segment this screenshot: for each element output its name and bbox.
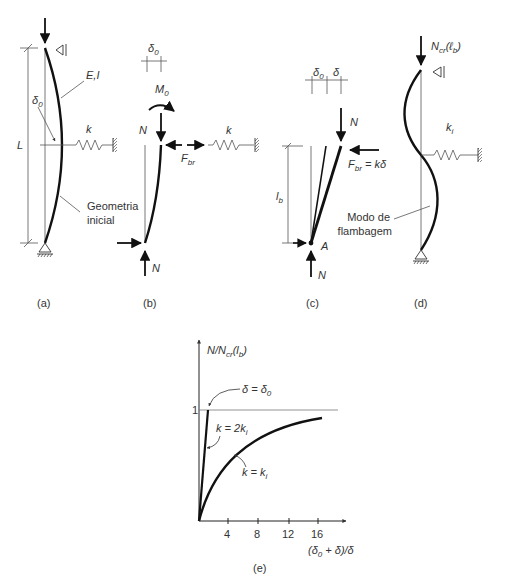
moment-arrow-icon xyxy=(149,105,174,111)
pin-support-icon xyxy=(415,250,427,259)
panel-e-chart: N/Ncr(lb) 1 4 8 12 16 (δ0 + δ)/δ δ = δ0 … xyxy=(192,340,355,574)
wall-anchor-icon xyxy=(255,138,259,152)
x-axis-label: (δ0 + δ)/δ xyxy=(308,544,355,559)
offset0-label: δ0 xyxy=(313,66,324,81)
caption-a: (a) xyxy=(37,297,50,309)
offset-label: δ0 xyxy=(148,42,159,57)
initial-geometry-label-2: inicial xyxy=(87,214,115,226)
x-tick-16: 16 xyxy=(311,528,323,540)
spring-icon xyxy=(62,140,113,150)
axial-top-label: N xyxy=(350,116,358,128)
spring-label: ki xyxy=(446,121,454,136)
buckling-mode-label-2: flambagem xyxy=(338,225,392,237)
annotation-delta-equals-delta0: δ = δ0 xyxy=(242,383,272,398)
initial-geometry-label-1: Geometria xyxy=(87,200,139,212)
pivot-label: A xyxy=(320,240,328,252)
brace-force-label: Fbr = kδ xyxy=(348,158,387,173)
annotation-k-ki: k = ki xyxy=(242,466,268,481)
brace-force-label: Fbr xyxy=(181,152,195,167)
axial-top-label: N xyxy=(139,124,147,136)
axial-bottom-label: N xyxy=(152,262,160,274)
pin-support-icon xyxy=(39,243,51,252)
caption-c: (c) xyxy=(306,297,319,309)
imperfect-column xyxy=(45,48,62,243)
initial-position-bar xyxy=(311,146,326,243)
y-axis-label: N/Ncr(lb) xyxy=(207,344,247,359)
wall-anchor-icon xyxy=(478,148,482,162)
caption-e: (e) xyxy=(253,562,266,574)
x-tick-4: 4 xyxy=(224,528,230,540)
annotation-k-2ki: k = 2ki xyxy=(216,422,248,437)
panel-a: L E,I δ0 k Geometria inicial (a) xyxy=(17,18,139,309)
x-tick-8: 8 xyxy=(254,528,260,540)
spring-label: k xyxy=(226,124,232,136)
pivot-point xyxy=(309,241,314,246)
roller-support-icon xyxy=(56,45,63,55)
stiffness-label: E,I xyxy=(86,69,99,81)
buckling-mode-label-1: Modo de xyxy=(347,211,390,223)
axial-bottom-label: N xyxy=(318,269,326,281)
displaced-bar xyxy=(311,146,341,243)
roller-support-icon xyxy=(433,67,441,77)
length-label: L xyxy=(17,139,23,151)
spring-icon xyxy=(421,150,478,160)
panel-c: δ0 δ N Fbr = kδ lb A N (c) xyxy=(276,66,387,309)
brace-length-label: lb xyxy=(276,190,283,205)
caption-b: (b) xyxy=(143,297,156,309)
panel-b: δ0 M0 N Fbr k N (b) xyxy=(117,42,259,309)
spring-icon xyxy=(208,140,254,150)
initial-offset-label: δ0 xyxy=(32,94,43,109)
spring-label: k xyxy=(86,123,92,135)
y-tick-1: 1 xyxy=(192,404,198,416)
wall-anchor-icon xyxy=(113,138,117,152)
column-segment xyxy=(145,145,161,243)
caption-d: (d) xyxy=(414,297,427,309)
x-tick-12: 12 xyxy=(282,528,294,540)
critical-load-label: Ncr(ℓb) xyxy=(431,40,461,55)
offset-label: δ xyxy=(333,66,340,78)
moment-label: M0 xyxy=(155,83,169,98)
figure-canvas: L E,I δ0 k Geometria inicial (a) δ0 M0 xyxy=(0,0,513,580)
